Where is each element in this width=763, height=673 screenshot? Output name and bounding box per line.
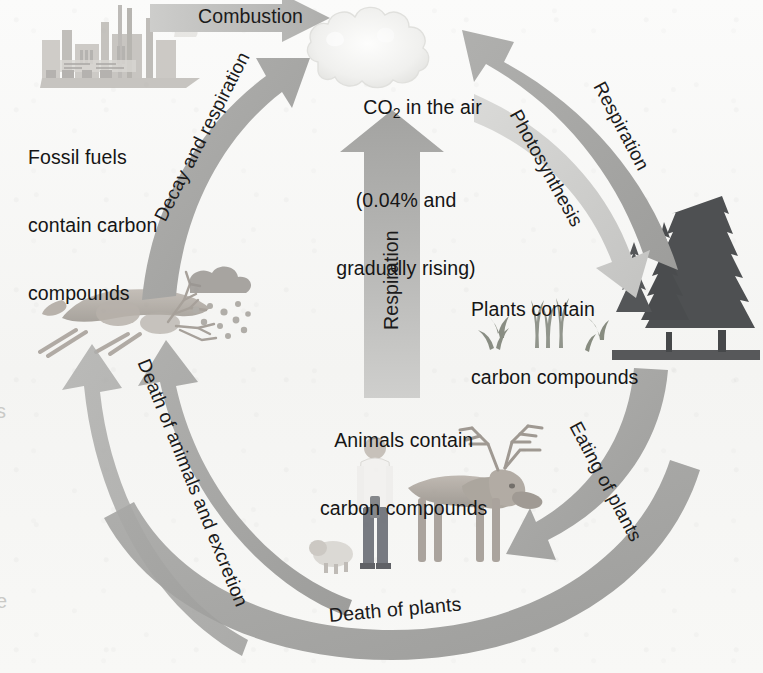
co2-line-3: gradually rising) [330,257,482,280]
fossil-line-3: compounds [28,282,157,305]
label-fossil-fuels: Fossil fuels contain carbon compounds [28,101,157,350]
edge-artifact-lower: e [0,590,7,613]
fossil-line-1: Fossil fuels [28,146,157,169]
animals-line-1: Animals contain [320,429,487,452]
edge-artifact-upper: s [0,400,6,423]
label-co2-in-air: CO2 in the air (0.04% and gradually risi… [330,28,482,325]
animals-line-2: carbon compounds [320,497,487,520]
plants-line-2: carbon compounds [471,366,638,389]
flow-label-combustion: Combustion [198,5,303,28]
flow-label-respiration-centre: Respiration [380,230,403,330]
carbon-cycle-diagram: CO2 in the air (0.04% and gradually risi… [0,0,763,673]
co2-subscript: 2 [393,105,401,121]
plants-line-1: Plants contain [471,298,638,321]
label-plants: Plants contain carbon compounds [471,253,638,434]
label-animals: Animals contain carbon compounds [320,384,487,565]
co2-line-2: (0.04% and [330,189,482,212]
co2-line-1: CO2 in the air [330,73,482,143]
fossil-line-2: contain carbon [28,214,157,237]
